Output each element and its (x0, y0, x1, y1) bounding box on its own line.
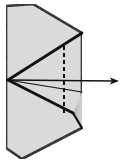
paper-folding-figure: paper-folding-step-diagram (0, 0, 123, 166)
figure-canvas: paper-folding-step-diagram (0, 0, 123, 166)
arrow-shaft (9, 80, 112, 81)
